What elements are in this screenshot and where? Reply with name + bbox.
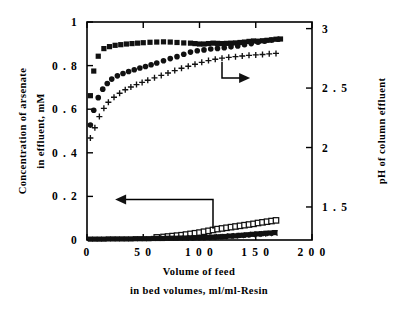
data-point [221,45,227,51]
annotation-arrowhead [239,73,250,83]
y-tick-label-right: 2 [322,142,329,154]
data-point [269,37,275,43]
y-tick-label-left: 0 . 2 [52,190,78,202]
data-point [101,105,107,111]
data-point [210,41,215,46]
data-point [255,39,261,45]
data-point [206,58,212,64]
data-point [192,41,197,46]
data-point [248,41,254,47]
y-tick-label-right: 2 . 5 [322,82,348,94]
data-point [174,40,179,45]
data-point [147,40,152,45]
data-point [109,76,115,82]
data-point [107,44,112,49]
y-axis-left-ticks [87,22,93,240]
data-point [101,46,106,51]
y-tick-label-left: 0 [71,234,78,246]
data-point [181,40,186,45]
y-axis-right-tick-labels: 1 . 522 . 53 [322,23,348,213]
data-point [182,235,187,240]
arrow-to-right-axis [222,62,250,83]
data-point [164,236,169,241]
data-point [142,236,147,241]
y-axis-left-label-line2: in effluent, mM [35,93,46,169]
data-point [246,52,252,58]
data-point [239,53,245,59]
y-axis-right-ticks [306,29,312,207]
data-point [235,43,241,49]
x-axis-label-line2: in bed volumes, ml/ml-Resin [130,285,268,296]
data-point [111,94,117,100]
data-point [273,50,279,56]
data-point [197,41,202,46]
data-point [158,72,164,78]
data-point [122,87,128,93]
data-point [199,59,205,65]
data-point [201,47,207,53]
y-tick-label-left: 0 . 8 [52,60,78,72]
y-tick-label-left: 1 [71,16,78,28]
data-point [152,75,158,81]
arrow-to-left-axis [115,194,213,228]
data-point [174,54,180,60]
annotation-leader [125,199,213,228]
data-point [141,40,146,45]
x-tick-label: 1 5 0 [241,246,270,258]
data-point [133,236,138,241]
data-point [135,41,140,46]
data-point [95,95,101,101]
x-tick-label: 5 0 [134,246,152,258]
data-point [165,70,171,76]
data-point [143,64,149,70]
data-point [161,39,166,44]
data-point [88,237,93,242]
x-tick-label: 2 0 0 [298,246,327,258]
data-point [137,236,142,241]
data-point [151,236,156,241]
data-point [215,41,220,46]
data-point [91,68,96,73]
data-point [154,60,160,66]
data-point [131,67,137,73]
data-point [212,56,218,62]
x-tick-label: 0 [84,246,91,258]
y-axis-right-label: pH of column effluent [376,78,387,185]
data-point [226,54,232,60]
data-point [185,63,191,69]
data-point [206,41,211,46]
data-point [110,236,115,241]
data-point [118,42,123,47]
data-point [101,237,106,242]
data-point [124,41,129,46]
y-axis-left-label-line1: Concentration of arsenate [17,68,28,195]
data-point [154,39,159,44]
x-axis-label-line1: Volume of feed [163,266,235,277]
x-axis-tick-labels: 05 01 0 01 5 02 0 0 [84,246,327,258]
x-tick-label: 1 0 0 [185,246,214,258]
data-point [169,236,174,241]
data-point [155,236,160,241]
data-point [96,54,101,59]
data-point [262,38,268,44]
plot-frame [87,22,312,240]
data-point [105,99,111,105]
figure-container: 05 01 0 01 5 02 0 0 00 . 20 . 40 . 60 . … [0,0,405,315]
data-point [100,86,106,92]
data-point [275,36,281,42]
annotation-arrowhead [115,194,126,204]
data-point [91,107,97,113]
data-point [168,39,173,44]
data-point [178,235,183,240]
data-point [87,135,93,141]
annotation-leader [222,62,240,78]
data-point [242,42,248,48]
data-point [233,54,239,60]
data-point [117,90,123,96]
y-tick-label-right: 3 [322,23,329,35]
data-point [139,79,145,85]
axes-frame [87,22,312,240]
data-point [128,236,133,241]
data-point [194,48,200,54]
data-point [201,41,206,46]
